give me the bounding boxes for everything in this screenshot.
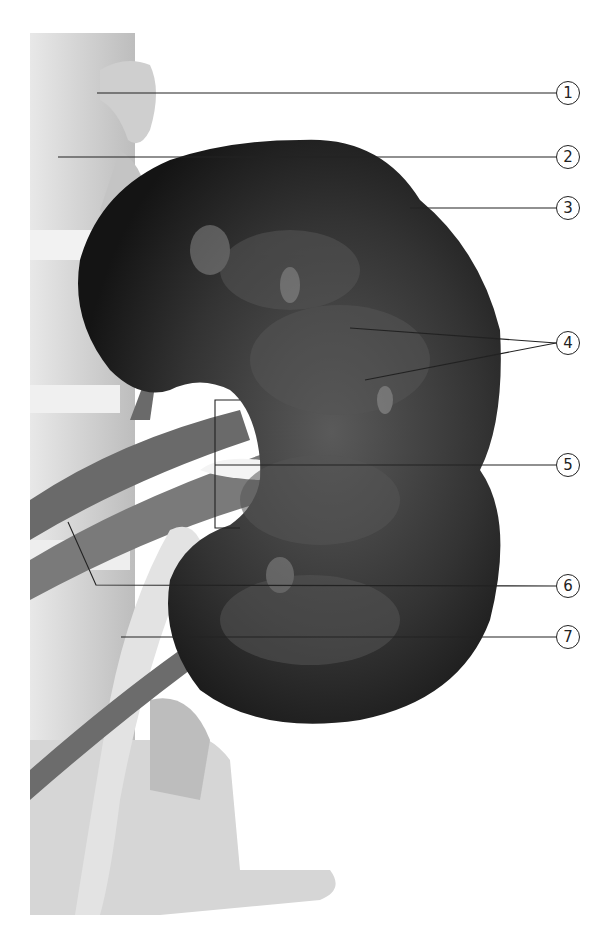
kidney-illustration: 1 2 3 4 5 6 7 [0, 0, 604, 950]
callout-number: 6 [563, 579, 573, 594]
callout-1: 1 [556, 81, 580, 105]
callout-7: 7 [556, 625, 580, 649]
callout-3: 3 [556, 196, 580, 220]
callout-4: 4 [556, 331, 580, 355]
callout-number: 5 [563, 458, 573, 473]
callout-number: 3 [563, 201, 573, 216]
callout-number: 2 [563, 150, 573, 165]
callout-number: 1 [563, 86, 573, 101]
callout-5: 5 [556, 453, 580, 477]
callout-2: 2 [556, 145, 580, 169]
callout-number: 7 [563, 630, 573, 645]
callout-6: 6 [556, 574, 580, 598]
callout-number: 4 [563, 336, 573, 351]
illustration-svg [0, 0, 604, 950]
